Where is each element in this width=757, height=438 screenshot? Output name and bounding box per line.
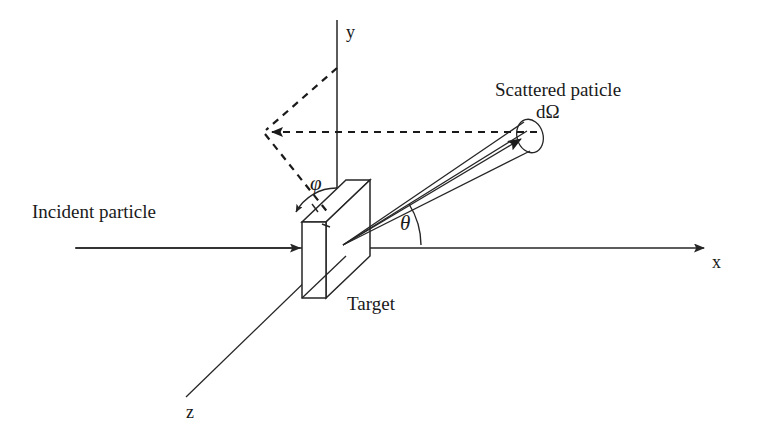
z-axis-label: z xyxy=(186,402,194,422)
x-axis-label: x xyxy=(712,252,721,272)
cone-edge-lower xyxy=(343,151,530,245)
theta-arc xyxy=(409,204,421,245)
scattering-diagram-svg: y x z Incident particle Scattered paticl… xyxy=(0,0,757,438)
scattered-particle-label: Scattered paticle xyxy=(495,79,621,100)
scattering-diagram-figure: y x z Incident particle Scattered paticl… xyxy=(0,0,757,438)
phi-angle-label: φ xyxy=(310,171,322,195)
incident-particle-label: Incident particle xyxy=(32,201,156,222)
scattered-cone xyxy=(343,116,547,245)
theta-angle-label: θ xyxy=(400,211,410,235)
target-slab xyxy=(302,180,370,298)
solid-angle-label: dΩ xyxy=(536,101,560,122)
phi-wedge-upper-dashed xyxy=(266,68,337,130)
target-label: Target xyxy=(347,293,396,314)
y-axis-label: y xyxy=(346,22,355,42)
